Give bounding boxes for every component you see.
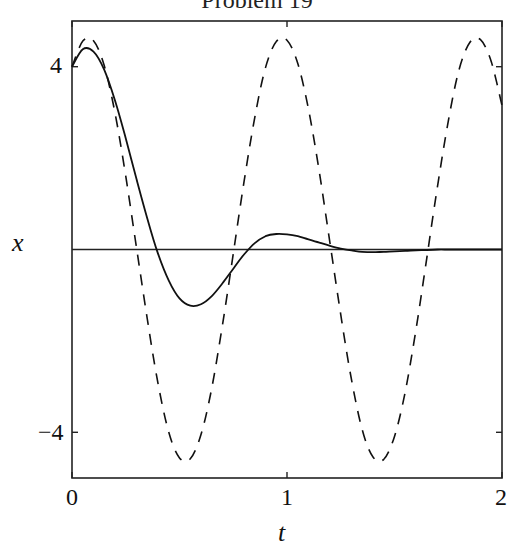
xtick-label-2: 2	[495, 484, 507, 511]
ytick-label-neg4: −4	[38, 419, 64, 446]
y-axis-label: x	[12, 228, 24, 258]
xtick-label-0: 0	[66, 484, 78, 511]
xtick-label-1: 1	[281, 484, 293, 511]
ytick-label-4: 4	[50, 52, 62, 79]
series-damped-solid	[72, 48, 502, 306]
x-axis-label: t	[278, 518, 285, 545]
